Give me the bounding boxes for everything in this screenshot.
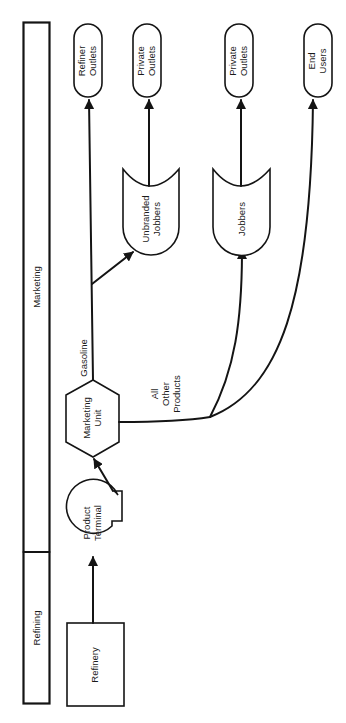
refinery-label: Refinery: [89, 647, 100, 683]
node-refinery[interactable]: Refinery: [67, 623, 124, 706]
node-refiner-outlets[interactable]: Refiner Outlets: [74, 24, 102, 97]
edge-other-products-trunk: [119, 417, 210, 422]
other-products-label-line3: Products: [171, 375, 182, 413]
stage-label-marketing: Marketing: [31, 266, 42, 308]
edge-gasoline-to-unbranded-jobbers: [92, 252, 133, 284]
edge-other-products-to-end-users: [210, 100, 313, 417]
stage-label-refining: Refining: [31, 611, 42, 646]
stage-bar-frame: [24, 23, 50, 704]
stage-bar: Marketing Refining: [24, 23, 50, 704]
terminal-label-line2: Terminal: [92, 505, 103, 541]
node-private-outlets-2[interactable]: Private Outlets: [225, 24, 253, 97]
jobbers-label: Jobbers: [236, 202, 247, 236]
node-private-outlets-1[interactable]: Private Outlets: [133, 24, 161, 97]
private-outlets-1-label-line2: Outlets: [146, 46, 157, 76]
marketing-unit-label-line1: Marketing: [81, 397, 92, 439]
node-product-terminal[interactable]: Product Terminal: [66, 479, 122, 541]
private-outlets-2-label-line1: Private: [227, 46, 238, 76]
terminal-label-line1: Product: [81, 506, 92, 539]
edge-other-products-to-jobbers: [210, 250, 242, 417]
refiner-outlets-label-line1: Refiner: [76, 46, 87, 77]
node-end-users[interactable]: End Users: [304, 24, 332, 97]
node-marketing-unit[interactable]: Marketing Unit: [66, 380, 119, 457]
unbranded-jobbers-label-line1: Unbranded: [140, 195, 151, 242]
gasoline-label: Gasoline: [78, 339, 89, 377]
edge-gasoline: Gasoline: [78, 100, 133, 380]
end-users-label-line1: End: [306, 53, 317, 70]
node-unbranded-jobbers[interactable]: Unbranded Jobbers: [123, 169, 179, 255]
other-products-label-line2: Other: [160, 382, 171, 406]
unbranded-jobbers-label-line2: Jobbers: [151, 202, 162, 236]
private-outlets-2-label-line2: Outlets: [238, 46, 249, 76]
petroleum-flow-diagram: Marketing Refining Refinery Product Term…: [0, 0, 346, 723]
marketing-unit-label-line2: Unit: [92, 409, 103, 426]
edge-gasoline-to-refiner-outlets: [89, 100, 93, 380]
refiner-outlets-label-line2: Outlets: [87, 46, 98, 76]
other-products-label-line1: All: [149, 389, 160, 400]
private-outlets-1-label-line1: Private: [135, 46, 146, 76]
end-users-label-line2: Users: [317, 48, 328, 73]
